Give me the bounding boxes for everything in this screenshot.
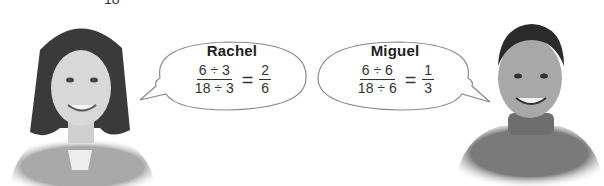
result-fraction: 1 3 (422, 63, 434, 96)
page-number-fragment: 18 (104, 0, 120, 7)
equals-sign: = (405, 70, 417, 90)
student-name: Miguel (312, 42, 478, 59)
fraction-equation: 6 ÷ 3 18 ÷ 3 = 2 6 (193, 63, 271, 96)
rachel-speech-bubble: Rachel 6 ÷ 3 18 ÷ 3 = 2 6 (136, 38, 314, 114)
student-name: Rachel (150, 42, 314, 59)
division-fraction: 6 ÷ 3 18 ÷ 3 (193, 63, 236, 96)
fraction-equation: 6 ÷ 6 18 ÷ 6 = 1 3 (356, 63, 434, 96)
result-fraction: 2 6 (259, 63, 271, 96)
division-fraction: 6 ÷ 6 18 ÷ 6 (356, 63, 399, 96)
miguel-speech-bubble: Miguel 6 ÷ 6 18 ÷ 6 = 1 3 (312, 38, 492, 114)
equals-sign: = (242, 70, 254, 90)
